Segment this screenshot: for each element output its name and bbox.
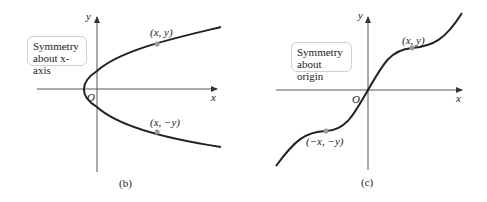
panel-b-y-axis-label: y [86,11,91,22]
diagram-canvas [0,0,487,202]
panel-b-parabola [84,27,221,147]
panel-b-point-upper-label: (x, y) [150,27,173,38]
panel-b-point-lower-label: (x, −y) [150,117,180,128]
panel-c-origin-label: O [352,94,360,105]
panel-c-x-axis-label: x [456,93,461,104]
panel-c-symmetry-box: Symmetry about origin [291,42,352,72]
panel-b-box-line1: Symmetry [33,40,81,52]
panel-c-axes [276,17,462,170]
panel-b-box-line2: about x-axis [33,52,81,76]
panel-b-origin-label: O [87,92,95,103]
panel-c-caption: (c) [361,177,373,188]
panel-b-point-upper [155,42,160,47]
panel-c-point-upper [410,46,415,51]
panel-c-y-axis-label: y [358,10,363,21]
panel-c-box-line1: Symmetry [297,46,346,58]
panel-c-point-lower-label: (−x, −y) [306,136,343,147]
panel-b-x-axis-label: x [211,92,216,103]
panel-c-box-line2: about origin [297,58,346,82]
panel-b-caption: (b) [119,178,132,189]
panel-b-symmetry-box: Symmetry about x-axis [27,36,87,66]
panel-b-point-lower [155,130,160,135]
panel-c-point-upper-label: (x, y) [402,35,425,46]
panel-c-point-lower [324,129,329,134]
